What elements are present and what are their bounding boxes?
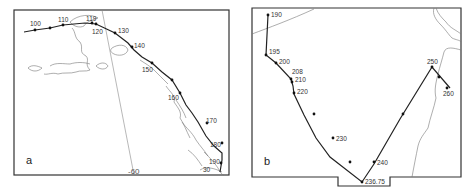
grid-label-minus-60: -60 <box>128 167 140 176</box>
track-label: 240 <box>377 159 388 166</box>
track-line-b <box>266 15 450 182</box>
track-label: 160 <box>168 94 179 101</box>
track-label: 100 <box>30 20 41 27</box>
track-label: 220 <box>297 88 308 95</box>
track-label: 140 <box>134 42 145 49</box>
track-label: 180 <box>210 141 221 148</box>
track-label: 190 <box>209 158 220 165</box>
track-label: 208 <box>292 68 303 75</box>
track-label: 200 <box>279 58 290 65</box>
track-label: 130 <box>118 27 129 34</box>
panel-a: -60 <box>14 10 229 176</box>
track-label: 230 <box>336 135 347 142</box>
panel-b: 190 195 200 208 210 220 230 236.75 240 2… <box>252 8 461 186</box>
track-label: 190 <box>271 11 282 18</box>
track-label: 120 <box>92 28 103 35</box>
track-label: 250 <box>427 58 438 65</box>
track-label: 195 <box>269 48 280 55</box>
panel-letter-b: b <box>264 155 270 167</box>
track-markers-b <box>265 14 449 184</box>
track-label: 236.75 <box>365 178 385 185</box>
track-map-figure: -60 <box>0 0 475 192</box>
panel-a-frame <box>14 10 229 175</box>
coastline <box>28 15 224 175</box>
track-label: 119 <box>86 15 97 22</box>
track-label: 110 <box>58 16 69 23</box>
grid-line-diagonal <box>252 9 314 34</box>
track-label: 260 <box>443 90 454 97</box>
grid-label-30: 30 <box>203 166 211 173</box>
track-label: 150 <box>142 66 153 73</box>
track-label: 170 <box>206 117 217 124</box>
track-label: 210 <box>295 76 306 83</box>
panel-letter-a: a <box>26 154 33 166</box>
panel-b-frame <box>252 8 461 186</box>
